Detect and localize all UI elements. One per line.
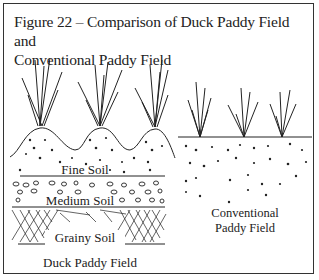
layer-label-medium-soil: Medium Soil [30,193,130,209]
conventional-caption: Conventional Paddy Field [190,206,300,236]
duck-plants [22,58,168,127]
conventional-caption-line-2: Paddy Field [190,221,300,236]
conventional-plants [188,82,296,137]
layer-label-grainy-soil: Grainy Soil [45,230,125,246]
duck-paddy-caption: Duck Paddy Field [20,255,160,271]
duck-mounds [10,128,175,158]
conventional-caption-line-1: Conventional [190,206,300,221]
layer-label-fine-soil: Fine Soil [40,162,130,178]
